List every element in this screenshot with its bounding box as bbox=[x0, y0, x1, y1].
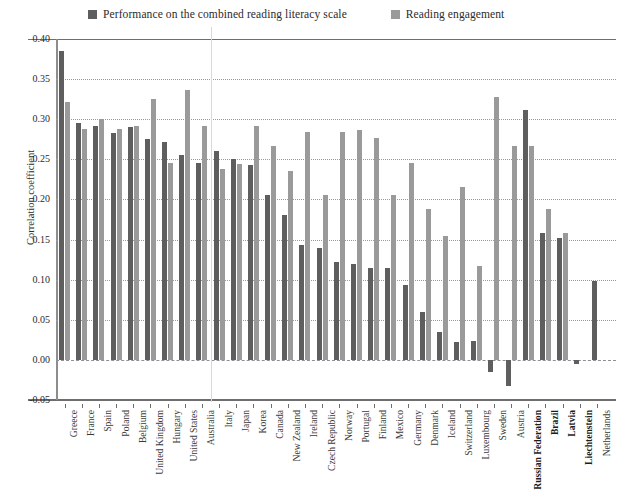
x-category-label: Canada bbox=[274, 410, 285, 439]
bar-engagement[interactable] bbox=[443, 236, 448, 360]
x-tickmark bbox=[425, 404, 426, 408]
bar-performance[interactable] bbox=[488, 360, 493, 372]
bar-engagement[interactable] bbox=[477, 266, 482, 360]
bar-engagement[interactable] bbox=[563, 233, 568, 360]
bar-engagement[interactable] bbox=[168, 163, 173, 360]
x-category-label: Russian Federation bbox=[532, 410, 543, 490]
bar-engagement[interactable] bbox=[340, 132, 345, 360]
x-tickmark bbox=[374, 404, 375, 408]
bar-engagement[interactable] bbox=[512, 146, 517, 359]
gridline bbox=[56, 119, 616, 120]
bar-engagement[interactable] bbox=[82, 129, 87, 360]
x-tickmark bbox=[494, 404, 495, 408]
bar-performance[interactable] bbox=[368, 268, 373, 360]
bar-engagement[interactable] bbox=[529, 146, 534, 359]
bar-performance[interactable] bbox=[282, 215, 287, 359]
bar-performance[interactable] bbox=[506, 360, 511, 386]
x-category-label: Sweden bbox=[497, 410, 508, 440]
y-tick-label: 0.10 bbox=[24, 274, 50, 285]
bar-performance[interactable] bbox=[403, 285, 408, 360]
y-tick-label: 0.35 bbox=[24, 73, 50, 84]
bar-engagement[interactable] bbox=[323, 195, 328, 359]
y-tick-label: 0.40 bbox=[24, 33, 50, 44]
x-tickmark bbox=[442, 404, 443, 408]
bar-performance[interactable] bbox=[93, 126, 98, 360]
bar-performance[interactable] bbox=[385, 268, 390, 360]
x-tickmark bbox=[528, 404, 529, 408]
bar-engagement[interactable] bbox=[202, 126, 207, 360]
bar-performance[interactable] bbox=[437, 332, 442, 360]
x-category-label: Ireland bbox=[308, 410, 319, 437]
bar-performance[interactable] bbox=[540, 233, 545, 360]
legend-label-performance: Performance on the combined reading lite… bbox=[103, 8, 347, 20]
bar-performance[interactable] bbox=[145, 139, 150, 360]
bar-performance[interactable] bbox=[420, 312, 425, 360]
bar-engagement[interactable] bbox=[546, 209, 551, 360]
bar-engagement[interactable] bbox=[185, 90, 190, 360]
bar-performance[interactable] bbox=[128, 127, 133, 360]
oecd-partner-separator bbox=[211, 27, 212, 402]
y-tick-label: -0.05 bbox=[24, 394, 50, 405]
x-category-label: Mexico bbox=[394, 410, 405, 439]
x-tickmark bbox=[511, 404, 512, 408]
x-category-label: Spain bbox=[102, 410, 113, 432]
bar-engagement[interactable] bbox=[134, 126, 139, 360]
legend-item-engagement: Reading engagement bbox=[391, 8, 505, 20]
bar-engagement[interactable] bbox=[305, 132, 310, 360]
bar-engagement[interactable] bbox=[494, 97, 499, 360]
bar-performance[interactable] bbox=[214, 151, 219, 360]
x-category-label: United States bbox=[188, 410, 199, 461]
bar-engagement[interactable] bbox=[357, 130, 362, 359]
bar-performance[interactable] bbox=[523, 110, 528, 360]
legend-swatch-engagement-icon bbox=[391, 10, 400, 19]
x-category-label: Hungary bbox=[171, 410, 182, 444]
bar-engagement[interactable] bbox=[237, 164, 242, 360]
bar-performance[interactable] bbox=[162, 142, 167, 360]
x-category-label: Greece bbox=[68, 410, 79, 437]
x-tickmark bbox=[116, 404, 117, 408]
chart-root: Performance on the combined reading lite… bbox=[0, 0, 621, 496]
bar-performance[interactable] bbox=[454, 342, 459, 360]
bar-performance[interactable] bbox=[574, 360, 579, 364]
x-category-label: Japan bbox=[240, 410, 251, 432]
bar-performance[interactable] bbox=[248, 165, 253, 360]
bar-performance[interactable] bbox=[179, 155, 184, 360]
bar-performance[interactable] bbox=[557, 238, 562, 360]
bar-engagement[interactable] bbox=[220, 169, 225, 360]
y-tick-label: 0.15 bbox=[24, 234, 50, 245]
x-tickmark bbox=[202, 404, 203, 408]
bar-engagement[interactable] bbox=[254, 126, 259, 360]
bar-engagement[interactable] bbox=[271, 146, 276, 359]
bar-performance[interactable] bbox=[59, 51, 64, 360]
bar-engagement[interactable] bbox=[288, 171, 293, 360]
x-category-label: Korea bbox=[257, 410, 268, 433]
bar-performance[interactable] bbox=[351, 264, 356, 360]
plot-area bbox=[56, 39, 616, 400]
y-tick-label: 0.30 bbox=[24, 113, 50, 124]
y-tick-label: 0.00 bbox=[24, 354, 50, 365]
bar-engagement[interactable] bbox=[460, 187, 465, 359]
bar-engagement[interactable] bbox=[99, 119, 104, 360]
bar-engagement[interactable] bbox=[409, 163, 414, 360]
bar-performance[interactable] bbox=[299, 245, 304, 360]
x-category-label: Denmark bbox=[429, 410, 440, 446]
bar-engagement[interactable] bbox=[374, 138, 379, 359]
bar-performance[interactable] bbox=[231, 159, 236, 360]
gridline bbox=[56, 360, 616, 361]
x-tickmark bbox=[219, 404, 220, 408]
bar-performance[interactable] bbox=[196, 163, 201, 360]
bar-engagement[interactable] bbox=[65, 102, 70, 360]
bar-performance[interactable] bbox=[265, 195, 270, 359]
bar-performance[interactable] bbox=[592, 281, 597, 360]
bar-engagement[interactable] bbox=[391, 195, 396, 359]
bar-performance[interactable] bbox=[317, 248, 322, 360]
bar-performance[interactable] bbox=[334, 262, 339, 360]
x-category-label: Germany bbox=[412, 410, 423, 446]
bar-performance[interactable] bbox=[471, 341, 476, 359]
bar-engagement[interactable] bbox=[426, 209, 431, 360]
bar-performance[interactable] bbox=[111, 133, 116, 360]
bar-engagement[interactable] bbox=[151, 99, 156, 360]
x-category-label: Australia bbox=[205, 410, 216, 445]
bar-performance[interactable] bbox=[76, 123, 81, 360]
bar-engagement[interactable] bbox=[117, 129, 122, 360]
